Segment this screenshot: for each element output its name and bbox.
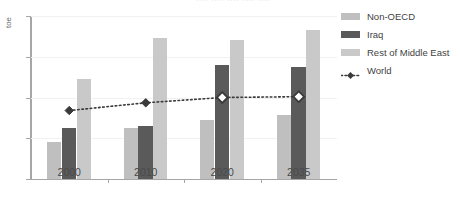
bar-group <box>200 16 244 179</box>
legend-line-marker-icon <box>341 66 360 75</box>
x-axis-label: 2010 <box>108 167 185 178</box>
legend-label: Rest of Middle East <box>367 48 449 58</box>
world-line <box>69 97 299 111</box>
legend-item[interactable]: Non-OECD <box>341 8 459 25</box>
x-axis-label: 2000 <box>31 167 108 178</box>
x-axis-label: 2035 <box>261 167 338 178</box>
bar-group <box>124 16 168 179</box>
chart-container: .... .... .... .... .... toe 01234 20002… <box>0 0 460 216</box>
x-axis-tick <box>261 179 262 183</box>
plot-area <box>31 16 337 179</box>
legend-label: Iraq <box>367 30 383 40</box>
y-axis-tick <box>26 16 31 17</box>
y-axis-title: toe <box>4 9 13 37</box>
y-axis-tick <box>26 98 31 99</box>
chart-legend: Non-OECDIraqRest of Middle EastWorld <box>341 8 459 80</box>
y-axis-tick <box>26 179 31 180</box>
bar <box>306 30 320 179</box>
bar-group <box>277 16 321 179</box>
bar <box>153 38 167 179</box>
legend-label: World <box>367 66 392 76</box>
y-axis-tick <box>26 138 31 139</box>
bar <box>77 79 91 179</box>
chart-title-clipped: .... .... .... .... .... <box>118 0 348 3</box>
legend-item[interactable]: Rest of Middle East <box>341 44 459 61</box>
legend-item[interactable]: World <box>341 62 459 79</box>
y-axis-tick <box>26 57 31 58</box>
x-axis-label: 2020 <box>184 167 261 178</box>
legend-swatch <box>341 13 360 20</box>
legend-label: Non-OECD <box>367 12 415 22</box>
legend-swatch <box>341 49 360 56</box>
bar <box>215 65 229 179</box>
legend-swatch <box>341 31 360 38</box>
bar-group <box>47 16 91 179</box>
x-axis-tick <box>184 179 185 183</box>
bar <box>230 40 244 179</box>
x-axis-tick <box>108 179 109 183</box>
legend-item[interactable]: Iraq <box>341 26 459 43</box>
bar <box>291 67 305 179</box>
